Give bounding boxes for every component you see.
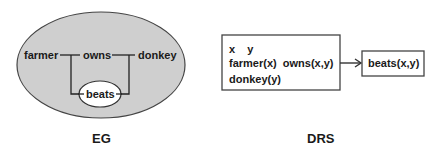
drs-consequent-condition: beats(x,y) [368,56,419,70]
eg-node-farmer: farmer [24,49,58,62]
arrow-icon [340,59,361,67]
eg-caption: EG [92,131,111,146]
eg-node-owns: owns [83,49,111,62]
drs-referents: x y [229,42,253,56]
drs-caption: DRS [307,131,334,146]
diagram-canvas [0,0,435,154]
eg-node-donkey: donkey [138,49,177,62]
eg-node-beats: beats [86,88,115,101]
drs-condition-1: farmer(x) owns(x,y) [229,56,334,70]
drs-condition-2: donkey(y) [229,72,281,86]
